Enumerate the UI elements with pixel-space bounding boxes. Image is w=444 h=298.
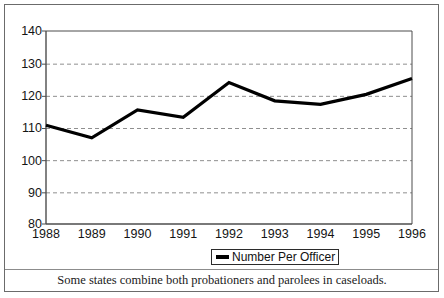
y-axis-label-130: 130 — [2, 58, 42, 70]
y-axis-label-100: 100 — [2, 155, 42, 167]
x-axis-label-1992: 1992 — [206, 227, 252, 241]
chart-footnote: Some states combine both probationers an… — [0, 273, 444, 288]
y-axis-label-120: 120 — [2, 90, 42, 102]
plot-background — [46, 31, 412, 224]
y-axis-labels: 140 130 120 110 100 90 80 — [0, 0, 42, 298]
x-axis-label-1991: 1991 — [160, 227, 206, 241]
y-axis-label-90: 90 — [2, 187, 42, 199]
x-axis-label-1990: 1990 — [115, 227, 161, 241]
legend-entry-label: Number Per Officer — [232, 251, 335, 264]
x-axis-label-1994: 1994 — [298, 227, 344, 241]
x-axis-label-1993: 1993 — [252, 227, 298, 241]
chart-legend: Number Per Officer — [211, 249, 339, 265]
x-axis-label-1996: 1996 — [389, 227, 435, 241]
legend-line-swatch-icon — [216, 255, 229, 259]
footnote-divider — [5, 269, 438, 270]
y-axis-label-140: 140 — [2, 25, 42, 37]
x-axis-labels: 1988 1989 1990 1991 1992 1993 1994 1995 … — [0, 227, 444, 245]
chart-figure: 140 130 120 110 100 90 80 1988 1989 1990… — [0, 0, 444, 298]
y-axis-label-110: 110 — [2, 122, 42, 134]
x-axis-label-1995: 1995 — [343, 227, 389, 241]
x-axis-label-1988: 1988 — [23, 227, 69, 241]
x-axis-label-1989: 1989 — [69, 227, 115, 241]
